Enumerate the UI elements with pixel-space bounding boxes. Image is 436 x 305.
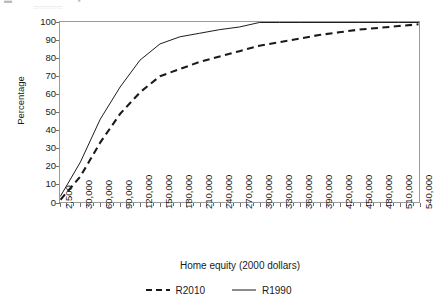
x-axis-tick bbox=[360, 203, 361, 207]
legend-label: R1990 bbox=[262, 285, 291, 296]
legend-label: R2010 bbox=[176, 285, 205, 296]
y-axis-tick-labels: 0102030405060708090100 bbox=[24, 21, 56, 203]
x-axis-tick-label: 510,000 bbox=[404, 175, 414, 209]
x-axis-tick-label: 360,000 bbox=[304, 175, 314, 209]
x-axis-tick bbox=[340, 203, 341, 207]
x-axis-tick-label: 90,000 bbox=[124, 180, 134, 209]
x-axis-tick bbox=[180, 203, 181, 207]
x-axis-tick bbox=[80, 203, 81, 207]
x-axis-tick-label: 480,000 bbox=[384, 175, 394, 209]
x-axis-tick-label: 420,000 bbox=[344, 175, 354, 209]
x-axis-tick bbox=[260, 203, 261, 207]
x-axis-tick bbox=[100, 203, 101, 207]
x-axis-tick bbox=[140, 203, 141, 207]
x-axis-tick-label: 390,000 bbox=[324, 175, 334, 209]
x-axis-tick bbox=[280, 203, 281, 207]
x-axis-tick bbox=[160, 203, 161, 207]
x-axis-tick-label: 60,000 bbox=[104, 180, 114, 209]
x-axis-tick bbox=[120, 203, 121, 207]
x-axis-tick-label: 540,000 bbox=[424, 175, 434, 209]
dashed-line-icon bbox=[145, 285, 171, 295]
x-axis-tick-label: 270,000 bbox=[244, 175, 254, 209]
x-axis-tick bbox=[240, 203, 241, 207]
x-axis-tick-labels: 2,50030,00060,00090,000120,000150,000180… bbox=[59, 209, 421, 257]
series-line-r2010 bbox=[60, 24, 418, 199]
x-axis-tick-label: 180,000 bbox=[184, 175, 194, 209]
x-axis-tick bbox=[320, 203, 321, 207]
x-axis-tick-label: 450,000 bbox=[364, 175, 374, 209]
x-axis-tick bbox=[220, 203, 221, 207]
x-axis-tick bbox=[200, 203, 201, 207]
legend-item-r1990[interactable]: R1990 bbox=[231, 285, 291, 296]
x-axis-tick-label: 330,000 bbox=[284, 175, 294, 209]
x-axis-tick-label: 120,000 bbox=[144, 175, 154, 209]
x-axis-tick bbox=[300, 203, 301, 207]
chart-figure: Percentage 0102030405060708090100 2,5003… bbox=[0, 0, 436, 305]
x-axis-tick-label: 150,000 bbox=[164, 175, 174, 209]
x-axis-tick-label: 210,000 bbox=[204, 175, 214, 209]
solid-line-icon bbox=[231, 285, 257, 295]
series-line-r1990 bbox=[60, 22, 418, 196]
x-axis-tick bbox=[380, 203, 381, 207]
x-axis-tick bbox=[400, 203, 401, 207]
x-axis-tick bbox=[420, 203, 421, 207]
legend-item-r2010[interactable]: R2010 bbox=[145, 285, 205, 296]
x-axis-title: Home equity (2000 dollars) bbox=[59, 260, 421, 271]
x-axis-tick-label: 300,000 bbox=[264, 175, 274, 209]
x-axis-tick bbox=[60, 203, 61, 207]
x-axis-tick-label: 2,500 bbox=[64, 185, 74, 209]
x-axis-tick-label: 30,000 bbox=[84, 180, 94, 209]
x-axis-tick-label: 240,000 bbox=[224, 175, 234, 209]
chart-legend: R2010R1990 bbox=[0, 281, 436, 299]
